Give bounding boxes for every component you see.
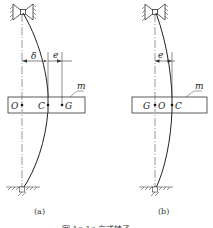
point-O: O (158, 101, 166, 111)
point-G: G (143, 101, 150, 111)
top-bearing-icon (10, 4, 36, 21)
e-label: e (158, 50, 163, 60)
mass-label: m (77, 81, 86, 91)
mass-label: m (195, 81, 204, 91)
bottom-support-icon (6, 187, 40, 196)
rotor-diagram: δ e O C G m (a) (0, 0, 213, 228)
point-G: G (65, 101, 72, 111)
point-C: C (38, 101, 45, 111)
figure-caption: 图 10-16 立式转子 (62, 224, 130, 228)
bottom-support-icon (139, 187, 173, 196)
point-O: O (11, 101, 19, 111)
point-C: C (175, 101, 182, 111)
disk-mass (8, 97, 85, 113)
panel-b: e G O C m (b) (132, 4, 207, 216)
delta-label: δ (31, 51, 36, 61)
panel-b-label: (b) (158, 207, 169, 216)
panel-a-label: (a) (34, 207, 45, 216)
e-label: e (53, 50, 58, 60)
panel-a: δ e O C G m (a) (6, 4, 86, 216)
